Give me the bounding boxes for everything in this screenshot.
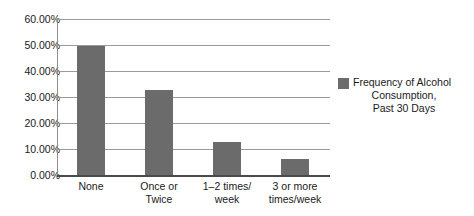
legend: Frequency of Alcohol Consumption, Past 3… [338,76,470,115]
x-axis-label-line: Twice [146,193,173,205]
x-axis-line [57,175,330,177]
bar-3-or-more-times-week [281,159,309,175]
bar-none [77,46,105,175]
bar-1-2-times-week [213,142,241,175]
legend-label-line: Consumption, [338,89,470,102]
bar-slot [125,19,193,175]
y-axis-tick-label: 20.00% [8,118,60,129]
plot-area [57,19,330,175]
legend-label-line: Frequency of Alcohol [353,76,470,89]
x-axis-label-line: Once or [140,180,177,192]
bar-slot [193,19,261,175]
y-axis-tick-label: 10.00% [8,144,60,155]
x-axis-label-line: week [215,193,240,205]
legend-label: Frequency of Alcohol Consumption, Past 3… [338,76,470,115]
bar-slot [261,19,329,175]
y-axis-tick-label: 30.00% [8,92,60,103]
x-axis-label-line: 3 or more [273,180,318,192]
bar-slot [57,19,125,175]
x-axis-label-line: 1–2 times/ [203,180,251,192]
bar-chart: 60.00% 50.00% 40.00% 30.00% 20.00% 10.00… [0,0,474,216]
x-axis-label-3-or-more-times-week: 3 or more times/week [255,180,335,205]
bar-once-or-twice [145,90,173,175]
legend-label-line: Past 30 Days [338,102,470,115]
y-axis-tick-label: 0.00% [8,170,60,181]
x-axis-label-line: times/week [269,193,322,205]
legend-swatch-icon [338,78,349,89]
x-axis-label-line: None [78,180,103,192]
y-axis-tick-label: 40.00% [8,66,60,77]
y-axis-tick-label: 60.00% [8,14,60,25]
y-axis-tick-label: 50.00% [8,40,60,51]
